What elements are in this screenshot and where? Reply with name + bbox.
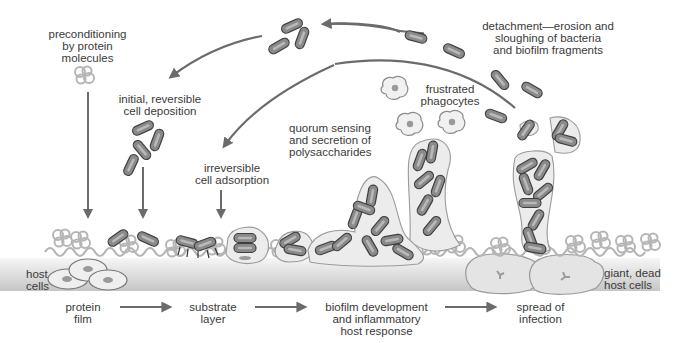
label-giant-dead-host-cells: giant, dead host cells [604, 267, 661, 291]
label-frustrated-phagocytes: frustrated phagocytes [410, 83, 490, 107]
label-quorum-sensing: quorum sensing and secretion of polysacc… [289, 122, 389, 158]
stage-biofilm-development: biofilm development and inflammatory hos… [314, 301, 439, 337]
protein-molecule-icon [75, 67, 94, 84]
label-host-cells: host cells [26, 268, 49, 292]
substrate-matrix-cell [226, 227, 268, 263]
label-irreversible-adsorption: irreversible cell adsorption [182, 162, 282, 186]
label-detachment: detachment—erosion and sloughing of bact… [478, 20, 618, 56]
stage-substrate-layer: substrate layer [178, 301, 248, 325]
label-initial-deposition: initial, reversible cell deposition [110, 93, 210, 117]
stage-protein-film: protein film [50, 301, 116, 325]
stage-spread-of-infection: spread of infection [503, 301, 578, 325]
label-preconditioning: preconditioning by protein molecules [40, 28, 135, 64]
